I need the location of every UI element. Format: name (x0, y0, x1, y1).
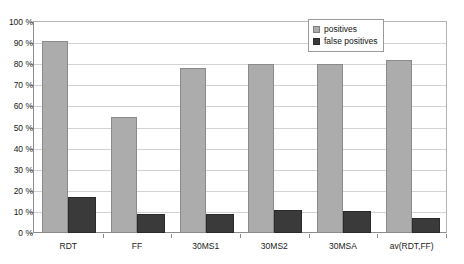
bar-false-positives (412, 218, 440, 233)
x-axis-tick-mark (240, 234, 241, 238)
y-axis-tick-label: 10 % (3, 207, 33, 216)
legend-item-label: positives (324, 25, 357, 34)
bar-false-positives (274, 210, 302, 233)
x-axis-tick-label: 30MS1 (171, 241, 240, 251)
bars-layer (34, 22, 446, 233)
legend-item-label: false positives (324, 37, 377, 46)
x-axis-tick-label: FF (103, 241, 172, 251)
bar-group (377, 22, 446, 233)
y-axis-tick-label: 30 % (3, 165, 33, 174)
x-axis-tick-mark (171, 234, 172, 238)
y-axis-tick-label: 20 % (3, 186, 33, 195)
x-axis-tick-label: 30MS2 (240, 241, 309, 251)
bar-positives (248, 64, 274, 233)
bar-group (171, 22, 240, 233)
legend-swatch-icon (313, 26, 320, 33)
bar-positives (111, 117, 137, 233)
bar-positives (42, 41, 68, 233)
bar-positives (386, 60, 412, 233)
x-axis-tick-label: RDT (34, 241, 103, 251)
legend-swatch-icon (313, 38, 320, 45)
bar-group (240, 22, 309, 233)
bar-false-positives (343, 211, 371, 233)
y-axis-tick-label: 90 % (3, 39, 33, 48)
bar-false-positives (137, 214, 165, 233)
y-axis-tick-label: 40 % (3, 144, 33, 153)
bar-false-positives (68, 197, 96, 233)
bar-group (103, 22, 172, 233)
legend-item[interactable]: false positives (313, 36, 377, 47)
y-axis-tick-label: 80 % (3, 60, 33, 69)
bar-positives (180, 68, 206, 233)
y-axis-tick-label: 70 % (3, 81, 33, 90)
y-axis-tick-label: 60 % (3, 102, 33, 111)
x-axis-tick-label: av(RDT,FF) (377, 241, 446, 251)
bar-group (34, 22, 103, 233)
chart-legend: positivesfalse positives (308, 19, 384, 52)
y-axis: 100 %90 %80 %70 %60 %50 %40 %30 %20 %10 … (0, 21, 33, 234)
x-axis: RDTFF30MS130MS230MSAav(RDT,FF) (34, 234, 446, 262)
x-axis-tick-mark (103, 234, 104, 238)
x-axis-tick-mark (377, 234, 378, 238)
bar-chart: 100 %90 %80 %70 %60 %50 %40 %30 %20 %10 … (0, 0, 464, 264)
y-axis-tick-mark (30, 233, 33, 234)
bar-false-positives (206, 214, 234, 233)
bar-positives (317, 64, 343, 233)
x-axis-tick-mark (446, 234, 447, 238)
bar-group (309, 22, 378, 233)
y-axis-tick-label: 100 % (3, 18, 33, 27)
x-axis-tick-mark (309, 234, 310, 238)
x-axis-tick-label: 30MSA (309, 241, 378, 251)
y-axis-tick-label: 50 % (3, 123, 33, 132)
y-axis-tick-label: 0 % (3, 229, 33, 238)
legend-item[interactable]: positives (313, 24, 377, 35)
